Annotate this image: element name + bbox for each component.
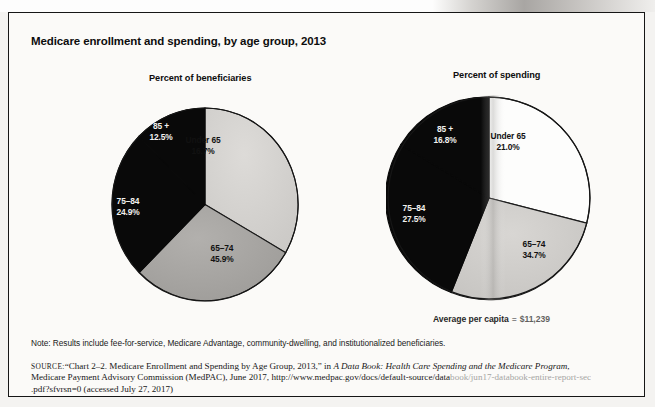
label-right-65-74: 65–74 34.7% — [506, 239, 562, 261]
source-publication-title: A Data Book: Health Care Spending and th… — [333, 361, 567, 371]
label-right-65-74-name: 65–74 — [523, 239, 546, 249]
label-left-85-plus-name: 85 + — [153, 121, 169, 131]
label-right-85-plus-pct: 16.8% — [421, 135, 469, 146]
label-right-under-65: Under 65 21.0% — [473, 131, 543, 153]
label-right-75-84-pct: 27.5% — [385, 214, 443, 225]
average-per-capita-equals: = — [509, 314, 520, 324]
label-left-under-65-pct: 16.7% — [167, 146, 239, 157]
panel-title-spending: Percent of spending — [453, 70, 540, 80]
source-line-2-text: Medicare Payment Advisory Commission (Me… — [31, 372, 450, 382]
label-left-under-65-name: Under 65 — [185, 135, 220, 145]
source-line-3: .pdf?sfvrsn=0 (accessed July 27, 2017) — [31, 384, 646, 395]
average-per-capita-value: $11,239 — [520, 314, 550, 324]
source-citation: source:“Chart 2–2. Medicare Enrollment a… — [31, 361, 646, 395]
label-left-75-84-pct: 24.9% — [101, 207, 155, 218]
note-text: Note: Results include fee-for-service, M… — [31, 338, 445, 348]
average-per-capita-label: Average per capita — [433, 314, 509, 324]
scanned-page: Medicare enrollment and spending, by age… — [0, 0, 655, 407]
panel-title-beneficiaries: Percent of beneficiaries — [149, 73, 251, 83]
scan-artifact — [0, 0, 655, 12]
label-left-65-74-name: 65–74 — [211, 243, 234, 253]
source-label: source: — [31, 362, 65, 371]
label-left-85-plus: 85 + 12.5% — [137, 121, 185, 143]
label-right-under-65-pct: 21.0% — [473, 142, 543, 153]
label-left-75-84-name: 75–84 — [117, 196, 140, 206]
source-line-2: Medicare Payment Advisory Commission (Me… — [31, 372, 646, 383]
figure-title: Medicare enrollment and spending, by age… — [31, 35, 326, 47]
label-right-under-65-name: Under 65 — [490, 131, 525, 141]
label-right-65-74-pct: 34.7% — [506, 250, 562, 261]
label-right-85-plus: 85 + 16.8% — [421, 124, 469, 146]
figure-border-box: Medicare enrollment and spending, by age… — [8, 12, 645, 397]
label-right-75-84-name: 75–84 — [403, 203, 426, 213]
pie-chart-spending — [386, 95, 592, 301]
label-left-65-74: 65–74 45.9% — [191, 243, 253, 265]
source-line-1-tail: , — [567, 361, 569, 371]
source-line-1-text: “Chart 2–2. Medicare Enrollment and Spen… — [65, 361, 334, 371]
label-left-85-plus-pct: 12.5% — [137, 132, 185, 143]
label-right-75-84: 75–84 27.5% — [385, 203, 443, 225]
label-left-65-74-pct: 45.9% — [191, 254, 253, 265]
average-per-capita-annotation: Average per capita=$11,239 — [433, 314, 550, 324]
label-left-75-84: 75–84 24.9% — [101, 196, 155, 218]
label-right-85-plus-name: 85 + — [437, 124, 453, 134]
source-line-2-faded-url: book/jun17-databook-entire-report-sec — [450, 372, 591, 382]
source-line-1: source:“Chart 2–2. Medicare Enrollment a… — [31, 361, 646, 372]
